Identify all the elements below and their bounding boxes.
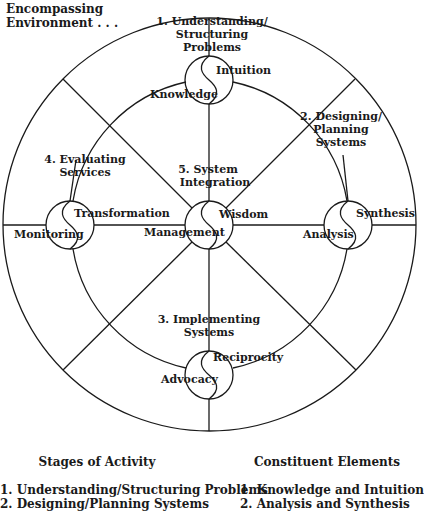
stage-2-label: 2. Designing/ Planning Systems xyxy=(300,110,382,149)
element-transformation: Transformation xyxy=(74,207,170,220)
element-wisdom: Wisdom xyxy=(219,208,268,221)
stage-1-line1: 1. Understanding/ xyxy=(156,15,267,28)
element-intuition: Intuition xyxy=(216,64,271,77)
environment-label-line1: Encompassing xyxy=(6,2,118,16)
stage-3-line2: Systems xyxy=(158,326,261,339)
inner-arc-bottom-left xyxy=(73,249,186,368)
element-reciprocity: Reciprocity xyxy=(213,351,283,364)
stage-5-line2: Integration xyxy=(166,176,250,189)
legend-stages-list: 1. Understanding/Structuring Problems 2.… xyxy=(0,483,268,511)
element-advocacy: Advocacy xyxy=(161,373,218,386)
stage-4-line1: 4. Evaluating xyxy=(44,153,125,166)
element-analysis: Analysis xyxy=(303,228,354,241)
stage-1-line3: Problems xyxy=(156,41,267,54)
legend-stage-item: 1. Understanding/Structuring Problems xyxy=(0,483,268,497)
stage-3-line1: 3. Implementing xyxy=(158,313,261,326)
spoke-diag-sw xyxy=(63,242,192,370)
legend-element-item: 1. Knowledge and Intuition xyxy=(240,483,424,497)
element-synthesis: Synthesis xyxy=(356,207,415,220)
stage-2-line2: Planning xyxy=(300,123,382,136)
stage-3-label: 3. Implementing Systems xyxy=(158,313,261,339)
stage-4-label: 4. Evaluating Services xyxy=(44,153,125,179)
legend-elements-list: 1. Knowledge and Intuition 2. Analysis a… xyxy=(240,483,424,511)
stage-1-line2: Structuring xyxy=(156,28,267,41)
environment-label-line2: Environment . . . xyxy=(6,16,118,30)
legend-stage-item: 2. Designing/Planning Systems xyxy=(0,497,268,511)
element-monitoring: Monitoring xyxy=(14,228,84,241)
stage-1-label: 1. Understanding/ Structuring Problems xyxy=(156,15,267,54)
element-management: Management xyxy=(144,226,225,239)
legend-elements-title: Constituent Elements xyxy=(254,456,400,469)
legend-stages-title: Stages of Activity xyxy=(38,456,155,469)
stage-5-label: 5. System Integration xyxy=(166,163,250,189)
element-knowledge: Knowledge xyxy=(150,88,218,101)
stage-4-line2: Services xyxy=(44,166,125,179)
stage-5-line1: 5. System xyxy=(166,163,250,176)
legend-element-item: 2. Analysis and Synthesis xyxy=(240,497,424,511)
environment-label: Encompassing Environment . . . xyxy=(6,2,118,30)
stage-2-line3: Systems xyxy=(300,136,382,149)
stage-2-line1: 2. Designing/ xyxy=(300,110,382,123)
